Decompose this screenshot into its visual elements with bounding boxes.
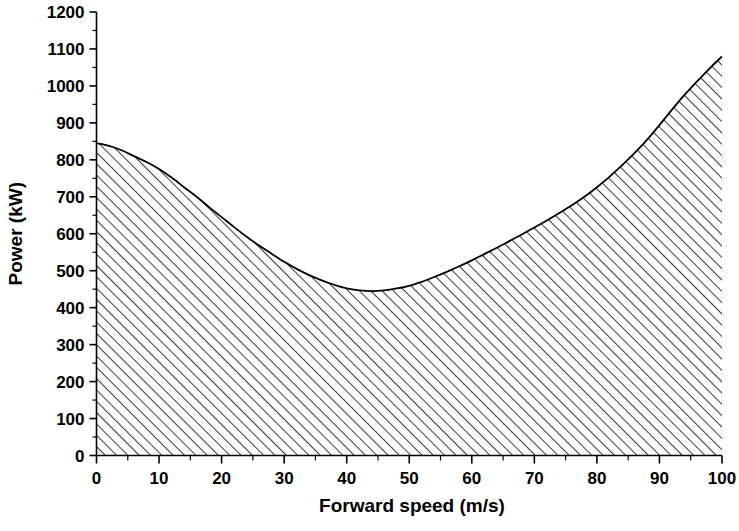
y-tick-label: 800 [56, 151, 84, 170]
y-axis-tick-labels: 0100200300400500600700800900100011001200 [47, 3, 85, 466]
x-tick-label: 60 [462, 469, 481, 488]
y-tick-label: 1200 [47, 3, 85, 22]
chart-figure: 0100200300400500600700800900100011001200… [0, 0, 739, 531]
y-axis-title: Power (kW) [5, 182, 26, 285]
y-tick-label: 1100 [48, 40, 85, 59]
x-tick-label: 70 [525, 469, 544, 488]
x-tick-label: 100 [708, 469, 736, 488]
y-tick-label: 300 [56, 336, 84, 355]
x-tick-label: 0 [92, 469, 101, 488]
x-axis-tick-labels: 0102030405060708090100 [92, 469, 736, 488]
x-axis-ticks [97, 456, 723, 464]
x-tick-label: 40 [337, 469, 356, 488]
y-tick-label: 1000 [47, 77, 85, 96]
y-tick-label: 400 [56, 299, 84, 318]
y-axis-ticks [90, 12, 97, 456]
y-tick-label: 700 [56, 188, 84, 207]
y-tick-label: 600 [56, 225, 84, 244]
x-tick-label: 10 [150, 469, 169, 488]
y-tick-label: 200 [56, 373, 84, 392]
y-tick-label: 500 [56, 262, 84, 281]
hatched-area-under-curve [97, 56, 723, 455]
y-tick-label: 900 [56, 114, 84, 133]
x-tick-label: 90 [650, 469, 669, 488]
x-axis-title: Forward speed (m/s) [319, 495, 505, 516]
power-vs-speed-chart: 0100200300400500600700800900100011001200… [0, 0, 739, 531]
x-tick-label: 50 [400, 469, 419, 488]
x-tick-label: 80 [587, 469, 606, 488]
x-tick-label: 30 [275, 469, 294, 488]
y-tick-label: 0 [75, 447, 84, 466]
x-tick-label: 20 [212, 469, 231, 488]
y-tick-label: 100 [56, 410, 84, 429]
